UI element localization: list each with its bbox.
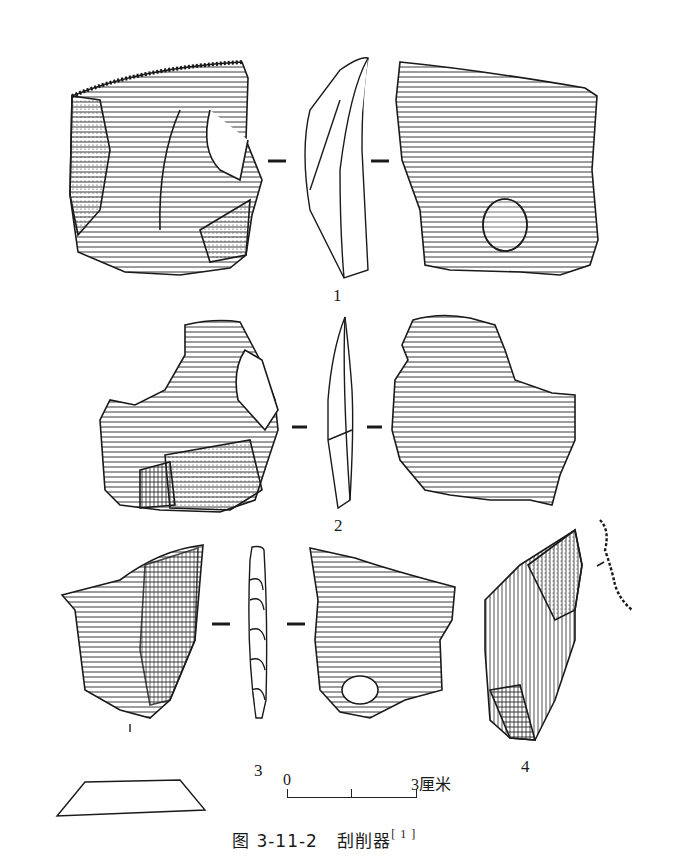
specimen-3-cross-section xyxy=(57,724,205,816)
figure-caption: 图 3-11-2 刮削器[ 1 ] xyxy=(232,827,416,852)
figure-reference: [ 1 ] xyxy=(391,827,416,841)
specimen-2-dorsal-view xyxy=(100,321,278,512)
specimen-1-number: 1 xyxy=(333,287,342,304)
figure-number: 图 3-11-2 xyxy=(232,831,318,851)
scale-bar: 0 3厘米 xyxy=(287,775,415,799)
specimen-4-edge-profile xyxy=(597,520,632,610)
specimen-3-profile-view xyxy=(249,546,267,718)
scale-bar-line xyxy=(287,789,417,798)
specimen-4-view xyxy=(485,530,582,740)
scale-bar-start-label: 0 xyxy=(283,771,291,789)
specimen-3-ventral-view xyxy=(310,548,455,718)
artifact-drawing-plate xyxy=(0,0,678,865)
specimen-1-dorsal-view xyxy=(70,62,262,275)
specimen-2-ventral-view xyxy=(392,315,575,505)
specimen-2-profile-view xyxy=(328,317,353,508)
specimen-1-ventral-view xyxy=(396,62,598,275)
figure-title: 刮削器 xyxy=(337,831,391,851)
specimen-2-number: 2 xyxy=(334,517,343,534)
specimen-3-dorsal-view xyxy=(62,545,203,718)
specimen-3-number: 3 xyxy=(254,762,263,779)
specimen-1-profile-view xyxy=(305,58,368,278)
scale-bar-end-label: 3厘米 xyxy=(411,771,451,795)
specimen-4-number: 4 xyxy=(521,758,530,775)
scale-bar-midtick xyxy=(351,789,352,797)
